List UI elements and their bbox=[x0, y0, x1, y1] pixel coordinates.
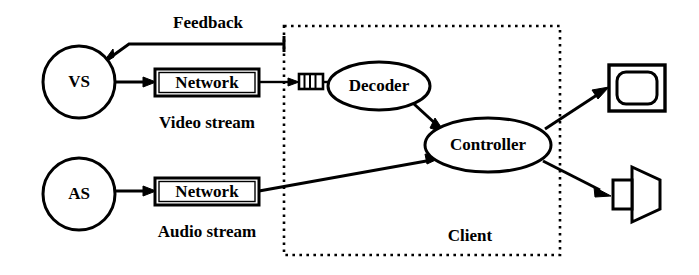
client-boundary-label: Client bbox=[448, 226, 493, 245]
decoder-label: Decoder bbox=[349, 76, 410, 95]
feedback-edge-label: Feedback bbox=[173, 13, 243, 32]
audio-source-label: AS bbox=[68, 184, 90, 203]
controller-label: Controller bbox=[450, 135, 527, 154]
diagram-svg: Client Feedback VS Network Video stream bbox=[0, 0, 699, 275]
video-network-label: Network bbox=[175, 73, 239, 92]
video-stream-label: Video stream bbox=[159, 113, 255, 132]
speaker-icon-cone bbox=[632, 167, 660, 222]
buffer-queue-icon bbox=[299, 74, 323, 89]
video-source-label: VS bbox=[68, 72, 90, 91]
audio-network-label: Network bbox=[175, 182, 239, 201]
controller-to-speaker-arrowhead bbox=[594, 187, 611, 197]
audio-stream-label: Audio stream bbox=[158, 222, 256, 241]
diagram-canvas: Client Feedback VS Network Video stream bbox=[0, 0, 699, 275]
monitor-icon-screen bbox=[617, 72, 657, 104]
feedback-edge-line bbox=[104, 44, 284, 62]
speaker-icon bbox=[613, 167, 660, 222]
speaker-icon-body bbox=[613, 180, 632, 209]
monitor-icon bbox=[609, 65, 665, 111]
